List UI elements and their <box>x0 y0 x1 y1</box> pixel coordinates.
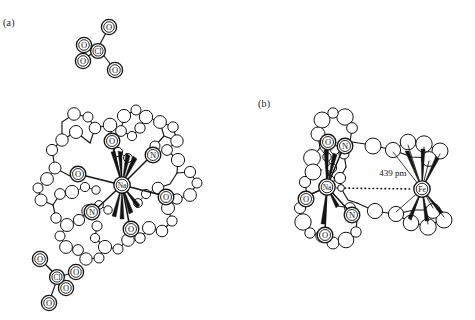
atom-label-cl: Cl <box>53 273 60 282</box>
atom-label-cl: Cl <box>94 47 101 56</box>
atom-label-na: Na <box>323 183 332 192</box>
cryptate-ferrocene-adduct: O O O N N Na 439 pm <box>294 108 452 249</box>
atom-label-o: O <box>325 137 331 147</box>
atom-label-o: O <box>63 283 69 293</box>
atom-label-fe: Fe <box>418 185 426 194</box>
atom-label-o: O <box>322 230 328 240</box>
atom-label-o: O <box>106 22 112 32</box>
atom-label-o: O <box>37 254 43 264</box>
atom-label-o: O <box>128 224 134 234</box>
atom-label-o: O <box>112 65 118 75</box>
sodium-cryptate-a: O O O O N N Na <box>33 105 202 265</box>
atom-label-o: O <box>81 40 87 50</box>
atom-label-o: O <box>303 194 309 204</box>
atom-label-o: O <box>46 298 52 308</box>
ferrocene: Fe <box>385 134 452 235</box>
perchlorate-top: O O O O Cl <box>75 19 122 77</box>
atom-label-o: O <box>73 267 79 277</box>
chemical-structure-figure: (a) (b) O O O O Cl <box>0 0 475 320</box>
na-fe-distance-marker: 439 pm <box>337 168 412 191</box>
structure-canvas: O O O O Cl O O <box>0 0 475 320</box>
atom-label-n: N <box>349 210 355 220</box>
atom-label-o: O <box>75 169 81 179</box>
atom-label-n: N <box>150 150 156 160</box>
atom-label-o: O <box>163 192 169 202</box>
perchlorate-bottom: O O O O Cl <box>32 251 83 310</box>
atom-label-n: N <box>89 207 95 217</box>
atom-label-n: N <box>342 141 348 151</box>
distance-label: 439 pm <box>379 168 406 178</box>
atom-label-na: Na <box>118 181 127 190</box>
atom-label-o: O <box>80 56 86 66</box>
atom-label-o: O <box>109 136 115 146</box>
